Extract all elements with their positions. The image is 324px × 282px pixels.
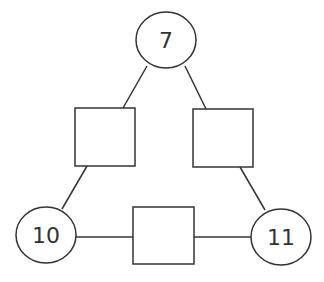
edge-right-box-to-right-circle — [240, 167, 265, 210]
edge-top-to-left-box — [123, 66, 147, 108]
circle-bottom-right-label: 11 — [267, 225, 295, 250]
edge-left-box-to-left-circle — [62, 166, 87, 209]
circle-bottom-left-label: 10 — [32, 223, 60, 248]
box-right-side[interactable] — [193, 109, 253, 167]
box-bottom-side[interactable] — [133, 207, 194, 264]
circle-top-label: 7 — [159, 28, 173, 53]
edge-top-to-right-box — [185, 66, 206, 109]
box-left-side[interactable] — [75, 108, 135, 166]
number-triangle-diagram: 7 10 11 — [0, 0, 324, 282]
